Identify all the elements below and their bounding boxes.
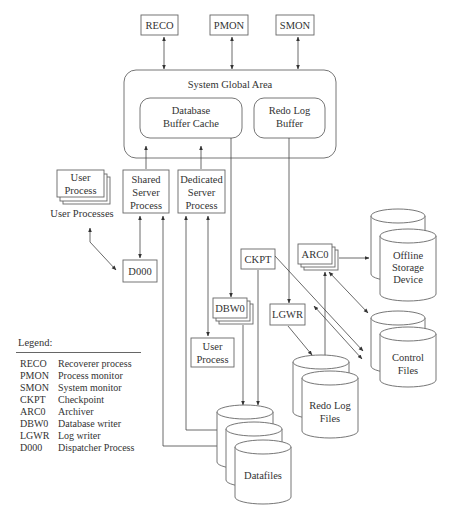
- svg-text:DBW0: DBW0: [215, 303, 245, 314]
- svg-text:PMON: PMON: [214, 20, 245, 31]
- svg-text:User: User: [71, 172, 91, 183]
- svg-text:Files: Files: [398, 365, 418, 376]
- svg-text:Process: Process: [185, 200, 217, 211]
- svg-text:Server: Server: [188, 187, 216, 198]
- lgwr-to-redo-files-arrow: [288, 326, 312, 355]
- user-process-dispatcher-arrow: [90, 228, 116, 270]
- svg-text:Storage: Storage: [392, 262, 424, 273]
- redo-log-files: Redo Log Files: [293, 355, 358, 438]
- legend-title: Legend:: [18, 336, 141, 350]
- svg-text:CKPT: CKPT: [245, 254, 272, 265]
- reco-box: RECO: [141, 15, 178, 35]
- database-buffer-cache: Database Buffer Cache: [140, 98, 242, 138]
- ckpt-box: CKPT: [241, 249, 275, 269]
- legend-item: ARC0Archiver: [16, 406, 141, 418]
- svg-text:System Global Area: System Global Area: [188, 79, 273, 90]
- arc0-stack: ARC0: [298, 244, 338, 270]
- svg-text:Database: Database: [172, 105, 211, 116]
- svg-text:ARC0: ARC0: [302, 249, 329, 260]
- svg-text:D000: D000: [128, 266, 151, 277]
- svg-text:Offline: Offline: [393, 250, 423, 261]
- smon-box: SMON: [276, 15, 314, 35]
- legend-item: CKPTCheckpoint: [16, 394, 141, 406]
- redo-log-buffer: Redo Log Buffer: [254, 98, 325, 138]
- svg-text:Process: Process: [196, 354, 228, 365]
- lgwr-box: LGWR: [270, 304, 305, 325]
- svg-text:Redo Log: Redo Log: [269, 105, 311, 116]
- svg-text:User: User: [203, 341, 223, 352]
- svg-text:Buffer Cache: Buffer Cache: [163, 118, 219, 129]
- lgwr-control-files-arrow: [314, 306, 362, 359]
- svg-text:Files: Files: [320, 413, 340, 424]
- svg-text:RECO: RECO: [145, 20, 173, 31]
- legend-item: D000Dispatcher Process: [16, 442, 141, 454]
- dedicated-server-process: Dedicated Server Process: [178, 170, 225, 213]
- svg-text:LGWR: LGWR: [272, 309, 303, 320]
- legend-divider: [16, 352, 141, 353]
- svg-text:Device: Device: [393, 274, 423, 285]
- dispatcher-d000: D000: [123, 260, 157, 282]
- legend-item: SMONSystem monitor: [16, 382, 141, 394]
- legend-item: DBW0Database writer: [16, 418, 141, 430]
- legend: Legend: RECORecoverer process PMONProces…: [16, 336, 141, 454]
- arc0-control-files-arrow: [329, 272, 368, 313]
- user-processes-label: User Processes: [50, 208, 113, 219]
- user-process-dedicated: User Process: [191, 338, 234, 367]
- dbw0-stack: DBW0: [213, 298, 253, 324]
- svg-text:Datafiles: Datafiles: [244, 470, 282, 481]
- svg-text:Shared: Shared: [131, 174, 161, 185]
- svg-text:Process: Process: [64, 185, 96, 196]
- svg-text:Dedicated: Dedicated: [180, 174, 223, 185]
- svg-text:Process: Process: [130, 200, 162, 211]
- svg-text:Server: Server: [132, 187, 160, 198]
- shared-server-process: Shared Server Process: [123, 170, 169, 213]
- offline-storage-device: Offline Storage Device: [371, 209, 436, 301]
- user-process-stack: User Process: [57, 170, 110, 204]
- legend-item: LGWRLog writer: [16, 430, 141, 442]
- legend-item: RECORecoverer process: [16, 358, 141, 370]
- control-files: Control Files: [371, 311, 436, 387]
- datafiles: Datafiles: [217, 405, 291, 504]
- datafiles-to-shared-line: [163, 216, 218, 446]
- svg-text:Control: Control: [392, 352, 424, 363]
- svg-text:SMON: SMON: [280, 20, 311, 31]
- pmon-box: PMON: [210, 15, 248, 35]
- svg-text:Buffer: Buffer: [276, 118, 304, 129]
- datafiles-to-dedicated-line: [186, 216, 218, 430]
- svg-text:Redo Log: Redo Log: [309, 400, 351, 411]
- legend-item: PMONProcess monitor: [16, 370, 141, 382]
